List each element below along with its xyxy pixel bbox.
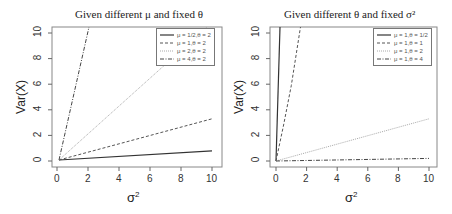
right-xtick-8: 8 — [395, 173, 401, 184]
right-ytick-8: 8 — [250, 55, 261, 61]
right-series-theta-4 — [276, 158, 429, 161]
left-series-mu-4 — [59, 27, 89, 160]
left-xtick-6: 6 — [147, 173, 153, 184]
right-y-axis-label: Var(X) — [232, 80, 246, 114]
left-xtick-2: 2 — [85, 173, 91, 184]
right-xtick-4: 4 — [334, 173, 340, 184]
right-legend-item: μ = 1,θ = 2 — [394, 48, 423, 54]
right-xtick-0: 0 — [273, 173, 279, 184]
left-ytick-6: 6 — [32, 81, 43, 87]
left-xtick-4: 4 — [116, 173, 122, 184]
right-xtick-2: 2 — [303, 173, 309, 184]
left-ytick-10: 10 — [32, 26, 43, 37]
right-ytick-6: 6 — [250, 81, 261, 87]
left-legend-item: μ = 1/2,θ = 2 — [177, 32, 211, 38]
left-x-axis-label: σ2 — [127, 190, 139, 205]
left-legend-item: μ = 1,θ = 2 — [177, 40, 206, 46]
right-legend-item: μ = 1,θ = 1/2 — [394, 32, 428, 38]
right-legend-item: μ = 1,θ = 1 — [394, 40, 423, 46]
right-legend-item: μ = 1,θ = 4 — [394, 56, 423, 62]
right-ytick-0: 0 — [250, 157, 261, 163]
right-xtick-6: 6 — [365, 173, 371, 184]
left-ytick-2: 2 — [32, 132, 43, 138]
left-chart-panel: Given different μ and fixed θ 0 2 4 6 8 … — [0, 0, 226, 214]
right-series-theta-half — [276, 27, 280, 161]
left-series-mu-half — [59, 151, 212, 160]
left-xtick-10: 10 — [206, 173, 217, 184]
left-ytick-8: 8 — [32, 55, 43, 61]
left-xtick-0: 0 — [54, 173, 60, 184]
right-chart-panel: Given different θ and fixed σ² 0 2 4 6 8… — [226, 0, 452, 214]
left-y-axis-label: Var(X) — [14, 80, 28, 114]
right-ytick-2: 2 — [250, 132, 261, 138]
right-xtick-10: 10 — [423, 173, 434, 184]
right-x-axis-label: σ2 — [345, 190, 357, 205]
left-xtick-8: 8 — [178, 173, 184, 184]
right-ytick-10: 10 — [250, 26, 261, 37]
left-ytick-4: 4 — [32, 106, 43, 112]
left-legend-item: μ = 4,θ = 2 — [177, 56, 206, 62]
right-legend: μ = 1,θ = 1/2 μ = 1,θ = 1 μ = 1,θ = 2 μ … — [373, 28, 432, 66]
right-series-theta-2 — [276, 119, 429, 161]
left-ytick-0: 0 — [32, 157, 43, 163]
right-ytick-4: 4 — [250, 106, 261, 112]
left-legend-item: μ = 2,θ = 2 — [177, 48, 206, 54]
left-legend: μ = 1/2,θ = 2 μ = 1,θ = 2 μ = 2,θ = 2 μ … — [156, 28, 215, 66]
